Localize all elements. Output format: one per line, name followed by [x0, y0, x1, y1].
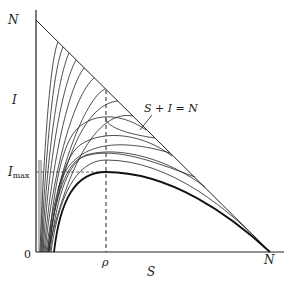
trajectories-right [48, 117, 270, 252]
label-n-right: N [263, 253, 275, 267]
boundary-line [36, 20, 270, 252]
label-s-axis: S [147, 265, 155, 279]
label-imax: Imax [7, 165, 30, 180]
label-boundary-equation: S + I = N [144, 102, 198, 115]
label-origin: 0 [24, 248, 31, 261]
label-rho: ρ [101, 256, 109, 269]
trajectories [40, 42, 195, 252]
label-n-top: N [7, 13, 19, 27]
label-i-axis: I [11, 93, 17, 107]
label-leader [140, 115, 152, 130]
bold-trajectory [54, 172, 270, 252]
sir-phase-plane: N I Imax 0 ρ S N S + I = N [0, 0, 292, 283]
